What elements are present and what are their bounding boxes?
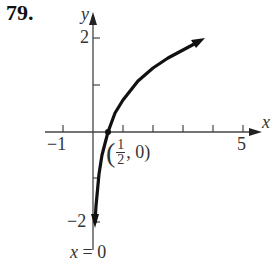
curve-start-arrow-icon [91,214,99,228]
curve-end-arrow-icon [191,38,205,48]
tick-label-5: 5 [237,134,246,155]
y-axis-arrow-icon [89,12,97,25]
tick-label-2: 2 [80,27,89,48]
graph [0,0,276,266]
asymptote-label: x = 0 [70,242,106,263]
x-intercept-point [105,129,111,135]
tick-label-neg2: −2 [67,211,86,232]
x-axis-arrow-icon [249,128,262,136]
tick-label-neg1: −1 [47,134,66,155]
x-ticks [63,125,243,132]
fraction-half: 1 2 [116,138,125,167]
point-label: ( 1 2 , 0) [106,138,150,167]
y-axis-label: y [81,4,89,25]
x-axis-label: x [262,112,270,133]
